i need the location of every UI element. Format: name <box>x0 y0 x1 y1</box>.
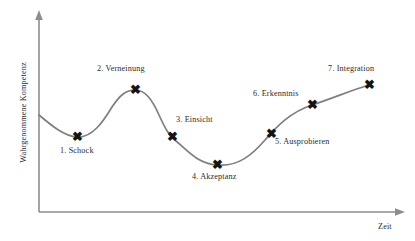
data-point-marker-3: ✖ <box>167 130 178 144</box>
data-point-label-7: 7. Integration <box>328 64 374 73</box>
x-axis <box>39 208 405 216</box>
data-point-label-3: 3. Einsicht <box>176 115 213 124</box>
y-axis-arrowhead <box>35 10 43 20</box>
data-point-label-6: 6. Erkenntnis <box>253 89 299 98</box>
data-point-label-4: 4. Akzeptanz <box>192 172 237 181</box>
data-point-label-5: 5. Ausprobieren <box>275 137 330 146</box>
data-point-marker-4: ✖ <box>212 158 223 172</box>
data-point-marker-7: ✖ <box>364 78 375 92</box>
data-point-marker-6: ✖ <box>307 98 318 112</box>
data-point-label-1: 1. Schock <box>60 146 94 155</box>
data-point-marker-2: ✖ <box>130 83 141 97</box>
y-axis-label: Wahrgenommene Kompetenz <box>19 43 28 183</box>
data-point-marker-1: ✖ <box>72 130 83 144</box>
x-axis-arrowhead <box>395 208 405 216</box>
change-curve-diagram: ✖ ✖ ✖ ✖ ✖ ✖ ✖ 1. Schock 2. Verneinung 3.… <box>0 0 415 241</box>
y-axis <box>35 10 43 212</box>
data-point-label-2: 2. Verneinung <box>97 64 145 73</box>
x-axis-label: Zeit <box>378 222 392 231</box>
